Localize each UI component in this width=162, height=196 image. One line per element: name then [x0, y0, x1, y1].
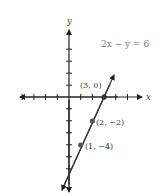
point-label-3-0: (3, 0): [80, 81, 102, 90]
point-3-0: [102, 94, 107, 99]
equation-label: 2x − y = 6: [101, 39, 149, 49]
y-axis-label: y: [66, 16, 72, 26]
point-2-neg2: [90, 118, 95, 123]
point-1-neg4: [78, 142, 83, 147]
x-axis: x: [20, 92, 151, 102]
x-axis-label: x: [146, 92, 151, 102]
point-label-1-neg4: (1, −4): [85, 142, 113, 151]
point-label-2-neg2: (2, −2): [96, 118, 124, 127]
coordinate-graph: x y: [0, 0, 162, 196]
y-axis: y: [66, 16, 72, 192]
